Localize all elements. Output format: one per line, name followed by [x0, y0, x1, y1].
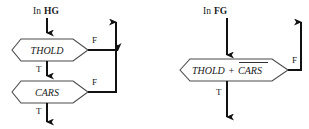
figure-root: In HG THOLD F T CARS F T	[0, 0, 309, 129]
left-input-gate-label: HG	[44, 6, 59, 16]
left-thold-true-label: T	[36, 64, 42, 74]
node-thold-part-label: THOLD	[192, 65, 226, 76]
right-input-gate-label: FG	[214, 6, 228, 16]
node-thold-label: THOLD	[31, 45, 65, 56]
left-thold-false-label: F	[92, 35, 97, 45]
left-input-prefix-label: In	[33, 6, 41, 16]
flowchart-canvas: In HG THOLD F T CARS F T	[0, 0, 309, 129]
left-cars-true-label: T	[36, 106, 42, 116]
node-plus-label: +	[228, 65, 235, 76]
left-diagram: In HG THOLD F T CARS F T	[12, 6, 118, 122]
right-false-label: F	[292, 55, 297, 65]
right-input-prefix-label: In	[203, 6, 211, 16]
node-cars-label: CARS	[35, 87, 59, 98]
node-cars-overlined-label: CARS	[238, 65, 262, 76]
right-diagram: In FG THOLD + CARS F T	[180, 6, 301, 117]
left-cars-false-label: F	[92, 77, 97, 87]
right-true-label: T	[216, 87, 222, 97]
